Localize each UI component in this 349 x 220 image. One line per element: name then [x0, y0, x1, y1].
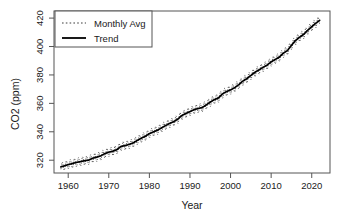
y-tick-label: 360	[35, 95, 46, 111]
y-tick-label: 380	[35, 67, 46, 83]
chart-legend: Monthly Avg Trend	[55, 11, 152, 47]
co2-chart: 320340360380400420 196019701980199020002…	[0, 0, 349, 220]
x-tick-label: 1990	[179, 180, 200, 191]
x-tick-label: 1980	[139, 180, 160, 191]
y-axis-title: CO2 (ppm)	[9, 78, 21, 130]
x-tick-label: 1970	[98, 180, 119, 191]
x-axis-title: Year	[181, 199, 203, 211]
y-tick-label: 400	[35, 39, 46, 55]
x-tick-label: 2000	[220, 180, 241, 191]
x-tick-label: 1960	[58, 180, 79, 191]
x-tick-label: 2020	[301, 180, 322, 191]
y-tick-label: 320	[35, 152, 46, 168]
legend-label-trend: Trend	[94, 33, 118, 44]
chart-canvas: 320340360380400420 196019701980199020002…	[0, 0, 349, 220]
y-tick-label: 420	[35, 10, 46, 26]
x-tick-label: 2010	[261, 180, 282, 191]
chart-background	[0, 0, 349, 220]
legend-label-monthly-avg: Monthly Avg	[94, 18, 146, 29]
y-tick-label: 340	[35, 124, 46, 140]
